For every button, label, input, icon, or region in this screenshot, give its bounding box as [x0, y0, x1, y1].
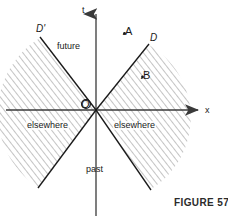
origin-label: O	[81, 99, 90, 110]
region-label-elsewhere-right: elsewhere	[113, 121, 156, 130]
t-axis-label: t	[82, 6, 85, 15]
spacetime-diagram-canvas	[0, 0, 228, 224]
region-label-elsewhere-left: elsewhere	[26, 121, 69, 130]
region-label-future: future	[57, 42, 80, 51]
elsewhere-left-hatched-region	[0, 38, 96, 187]
event-point-b-label: .B	[140, 70, 150, 81]
event-point-a-label: .A	[122, 26, 132, 37]
ray-label-d: D	[150, 33, 157, 43]
figure-caption: FIGURE 57	[174, 198, 228, 208]
ray-label-d-prime: D'	[36, 24, 45, 34]
figure-57-container: t x O D' D future past elsewhere elsewhe…	[0, 0, 228, 224]
x-axis-label: x	[205, 106, 210, 115]
region-label-past: past	[86, 165, 103, 174]
elsewhere-right-hatched-region	[96, 45, 191, 189]
